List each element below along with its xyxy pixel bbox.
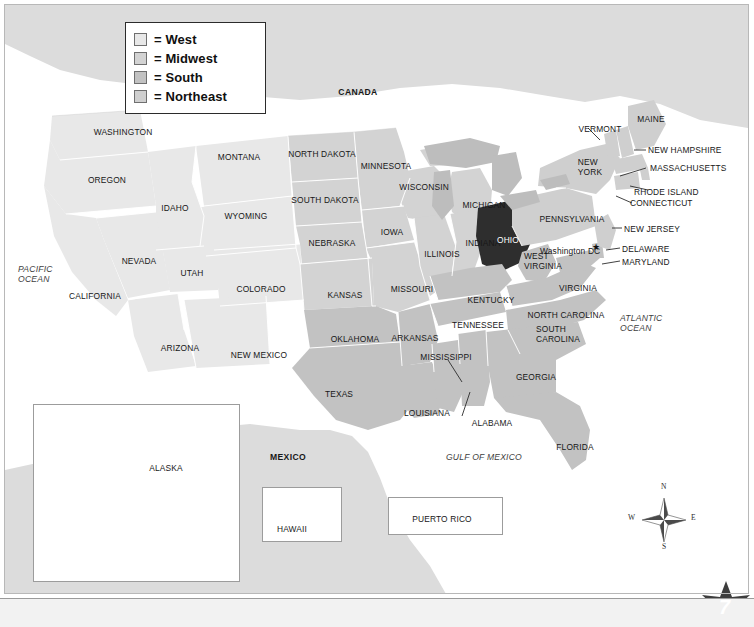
state-alabama bbox=[458, 330, 490, 406]
compass-south-label: S bbox=[662, 542, 666, 551]
label-south-carolina-line2: CAROLINA bbox=[536, 335, 580, 345]
label-west-virginia: WEST VIRGINIA bbox=[524, 252, 562, 271]
legend-label-midwest: = Midwest bbox=[154, 51, 217, 66]
label-texas: TEXAS bbox=[325, 389, 353, 399]
label-delaware: DELAWARE bbox=[622, 244, 670, 254]
label-florida: FLORIDA bbox=[556, 442, 593, 452]
label-pacific-ocean-line2: OCEAN bbox=[18, 275, 53, 285]
label-canada: CANADA bbox=[338, 87, 377, 97]
legend-label-northeast: = Northeast bbox=[154, 89, 227, 104]
label-atlantic-ocean-line2: OCEAN bbox=[620, 324, 663, 334]
legend-label-south: = South bbox=[154, 70, 203, 85]
footer-band bbox=[0, 599, 754, 627]
lake-huron bbox=[492, 152, 522, 196]
label-south-carolina: SOUTH CAROLINA bbox=[536, 325, 580, 344]
label-ohio-highlight: OHIO bbox=[497, 235, 519, 245]
label-tennessee: TENNESSEE bbox=[452, 320, 504, 330]
page-number: 7 bbox=[719, 596, 730, 619]
compass-north-label: N bbox=[661, 482, 666, 491]
label-mississippi: MISSISSIPPI bbox=[420, 352, 471, 362]
state-kansas bbox=[300, 258, 374, 310]
legend-swatch-west bbox=[134, 33, 147, 46]
label-pennsylvania: PENNSYLVANIA bbox=[540, 214, 605, 224]
label-wyoming: WYOMING bbox=[225, 211, 268, 221]
label-hawaii: HAWAII bbox=[277, 524, 307, 534]
label-maine: MAINE bbox=[637, 114, 664, 124]
label-michigan: MICHIGAN bbox=[462, 200, 505, 210]
label-new-york-line2: YORK bbox=[578, 168, 602, 178]
label-new-york: NEW YORK bbox=[578, 158, 602, 177]
label-indiana: INDIANA bbox=[465, 238, 500, 248]
label-nebraska: NEBRASKA bbox=[309, 238, 356, 248]
label-virginia: VIRGINIA bbox=[559, 283, 597, 293]
label-arizona: ARIZONA bbox=[161, 343, 199, 353]
label-minnesota: MINNESOTA bbox=[361, 161, 412, 171]
label-gulf-of-mexico: GULF OF MEXICO bbox=[446, 452, 522, 462]
capital-star-icon: ★ bbox=[592, 243, 600, 252]
label-new-hampshire: NEW HAMPSHIRE bbox=[648, 145, 722, 155]
state-maine bbox=[628, 100, 666, 150]
label-atlantic-ocean: ATLANTIC OCEAN bbox=[620, 314, 663, 333]
label-california: CALIFORNIA bbox=[69, 291, 121, 301]
region-legend: = West = Midwest = South = Northeast bbox=[125, 22, 266, 114]
legend-label-west: = West bbox=[154, 32, 197, 47]
region-west bbox=[44, 110, 304, 372]
map-page: 7 = West = Midwest = South = Northeast C… bbox=[0, 0, 754, 627]
label-wisconsin: WISCONSIN bbox=[399, 182, 449, 192]
label-iowa: IOWA bbox=[381, 227, 404, 237]
label-massachusetts: MASSACHUSETTS bbox=[650, 163, 726, 173]
label-pacific-ocean: PACIFIC OCEAN bbox=[18, 265, 53, 284]
label-colorado: COLORADO bbox=[236, 284, 285, 294]
legend-item-northeast: = Northeast bbox=[134, 87, 257, 105]
legend-item-midwest: = Midwest bbox=[134, 49, 257, 67]
label-north-carolina: NORTH CAROLINA bbox=[528, 310, 605, 320]
state-texas bbox=[292, 342, 418, 430]
label-kentucky: KENTUCKY bbox=[468, 295, 515, 305]
label-new-jersey: NEW JERSEY bbox=[624, 224, 680, 234]
label-idaho: IDAHO bbox=[161, 203, 188, 213]
label-alaska: ALASKA bbox=[149, 463, 183, 473]
legend-swatch-northeast bbox=[134, 90, 147, 103]
label-montana: MONTANA bbox=[218, 152, 260, 162]
label-louisiana: LOUISIANA bbox=[404, 408, 450, 418]
legend-item-west: = West bbox=[134, 30, 257, 48]
label-alabama: ALABAMA bbox=[472, 418, 513, 428]
legend-swatch-midwest bbox=[134, 52, 147, 65]
label-rhode-island: RHODE ISLAND bbox=[634, 187, 699, 197]
compass-east-label: E bbox=[691, 513, 696, 522]
label-nevada: NEVADA bbox=[122, 256, 157, 266]
label-north-dakota: NORTH DAKOTA bbox=[288, 149, 356, 159]
label-washington: WASHINGTON bbox=[94, 127, 153, 137]
label-mexico: MEXICO bbox=[270, 452, 306, 462]
label-puerto-rico: PUERTO RICO bbox=[412, 514, 472, 524]
label-arkansas: ARKANSAS bbox=[392, 333, 439, 343]
label-oklahoma: OKLAHOMA bbox=[331, 334, 380, 344]
legend-item-south: = South bbox=[134, 68, 257, 86]
label-west-virginia-line2: VIRGINIA bbox=[524, 262, 562, 272]
label-illinois: ILLINOIS bbox=[424, 249, 460, 259]
compass-west-label: W bbox=[628, 513, 635, 522]
label-vermont: VERMONT bbox=[579, 124, 622, 134]
label-connecticut: CONNECTICUT bbox=[630, 198, 693, 208]
label-missouri: MISSOURI bbox=[391, 284, 434, 294]
compass-rose: N E S W bbox=[622, 486, 706, 554]
label-new-mexico: NEW MEXICO bbox=[231, 350, 287, 360]
label-georgia: GEORGIA bbox=[516, 372, 556, 382]
legend-swatch-south bbox=[134, 71, 147, 84]
inset-alaska bbox=[33, 404, 240, 582]
label-south-dakota: SOUTH DAKOTA bbox=[291, 195, 358, 205]
label-kansas: KANSAS bbox=[328, 290, 363, 300]
label-utah: UTAH bbox=[181, 268, 204, 278]
state-montana bbox=[196, 136, 292, 206]
lake-superior bbox=[424, 138, 500, 168]
label-maryland: MARYLAND bbox=[622, 257, 670, 267]
label-oregon: OREGON bbox=[88, 175, 126, 185]
